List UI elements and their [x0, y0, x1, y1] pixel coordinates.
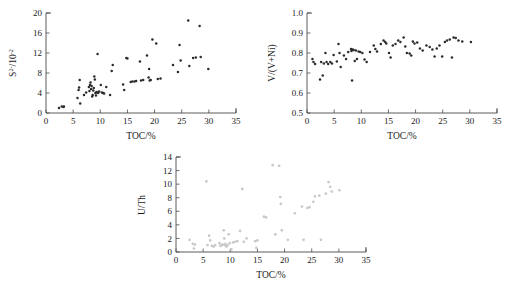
data-point: [281, 229, 284, 232]
panel-b-x-axis-title: TOC/%: [387, 131, 416, 141]
data-point: [404, 45, 407, 48]
data-point: [320, 238, 323, 241]
data-point: [230, 248, 233, 251]
figure-scatter-panels: 048121620 05101520253035 S2-/10-2 TOC/% …: [0, 0, 522, 289]
panel-a-s2-vs-toc: 048121620 05101520253035 S2-/10-2 TOC/%: [0, 0, 261, 145]
data-point: [198, 25, 201, 28]
panel-a-y-ticks: [46, 13, 50, 113]
data-point: [92, 89, 95, 92]
data-point: [222, 229, 225, 232]
panel_a-ytick-8: 8: [38, 68, 43, 78]
panel_b-xtick-10: 10: [357, 116, 367, 126]
panel-a-x-ticks: [46, 110, 236, 114]
data-point: [345, 58, 348, 61]
data-point: [454, 37, 457, 40]
data-point: [208, 234, 211, 237]
panel_a-xtick-20: 20: [150, 116, 160, 126]
data-point: [209, 239, 212, 242]
data-point: [96, 53, 99, 56]
data-point: [419, 47, 422, 50]
data-point: [338, 189, 341, 192]
data-point: [88, 90, 91, 93]
data-point: [77, 89, 80, 92]
data-point: [449, 38, 452, 41]
data-point: [123, 89, 126, 92]
data-point: [228, 242, 231, 245]
panel_c-xtick-30: 30: [334, 255, 344, 265]
data-point: [294, 212, 297, 215]
data-point: [399, 41, 402, 44]
panel-a-y-ticklabels: 048121620: [33, 8, 43, 118]
data-point: [336, 60, 339, 63]
data-point: [95, 94, 98, 97]
panel-a-svg: 048121620 05101520253035 S2-/10-2 TOC/%: [0, 0, 261, 145]
data-point: [337, 43, 340, 46]
data-point: [408, 52, 411, 55]
data-point: [394, 43, 397, 46]
data-point: [318, 194, 321, 197]
data-point: [410, 54, 413, 57]
panel-b-x-ticks: [307, 110, 497, 114]
data-point: [233, 240, 236, 243]
data-point: [327, 181, 330, 184]
data-point: [214, 244, 217, 247]
data-point: [331, 62, 334, 65]
data-point: [90, 88, 93, 91]
data-point: [321, 74, 324, 77]
data-point: [146, 54, 149, 57]
data-point: [397, 39, 400, 42]
data-point: [359, 51, 362, 54]
svg-text:S2-/10-2: S2-/10-2: [7, 49, 18, 77]
panel_b-xtick-15: 15: [384, 116, 394, 126]
panel-c-x-ticks: [176, 249, 366, 253]
data-point: [451, 56, 454, 59]
panel-c-x-ticklabels: 05101520253035: [174, 255, 371, 265]
panel_c-xtick-5: 5: [201, 255, 206, 265]
data-point: [330, 190, 333, 193]
data-point: [265, 216, 268, 219]
panel_c-ytick-2: 2: [168, 234, 173, 244]
data-point: [365, 61, 368, 64]
data-point: [361, 52, 364, 55]
data-point: [147, 76, 150, 79]
data-point: [392, 44, 395, 47]
panel_a-xtick-25: 25: [177, 116, 187, 126]
panel_c-xtick-0: 0: [174, 255, 179, 265]
data-point: [188, 238, 191, 241]
panel-c-y-ticks: [176, 157, 180, 252]
data-point: [188, 65, 191, 68]
data-point: [327, 63, 330, 66]
data-point: [126, 57, 128, 60]
panel_c-ytick-14: 14: [163, 152, 173, 162]
data-point: [150, 79, 153, 82]
data-point: [122, 83, 125, 86]
panel_a-xtick-0: 0: [44, 116, 49, 126]
panel_a-ytick-16: 16: [33, 28, 43, 38]
data-point: [227, 233, 230, 236]
data-point: [236, 240, 239, 243]
data-point: [79, 102, 82, 105]
data-point: [139, 60, 142, 63]
panel-c-svg: 02468101214 05101520253035 U/Th TOC/%: [130, 145, 391, 289]
data-point: [425, 44, 428, 47]
data-point: [470, 41, 473, 44]
panel_c-ytick-0: 0: [168, 247, 173, 257]
data-point: [286, 238, 289, 241]
panel_a-xtick-10: 10: [96, 116, 106, 126]
panel_c-xtick-35: 35: [362, 255, 372, 265]
panel-b-x-ticklabels: 05101520253035: [305, 116, 502, 126]
data-point: [347, 51, 350, 54]
panel-a-x-axis-title: TOC/%: [126, 131, 155, 141]
panel_c-ytick-10: 10: [163, 179, 173, 189]
data-point: [338, 52, 341, 55]
panel_c-ytick-12: 12: [163, 166, 172, 176]
data-point: [255, 247, 258, 250]
data-point: [223, 237, 226, 240]
panel-b-vni-vs-toc: 0.50.60.70.80.91.0 05101520253035 V/(V+N…: [261, 0, 522, 145]
panel_a-ytick-12: 12: [33, 48, 42, 58]
data-point: [239, 230, 242, 233]
data-point: [177, 71, 180, 74]
data-point: [332, 54, 335, 57]
panel-a-x-ticklabels: 05101520253035: [44, 116, 241, 126]
data-point: [402, 36, 405, 39]
